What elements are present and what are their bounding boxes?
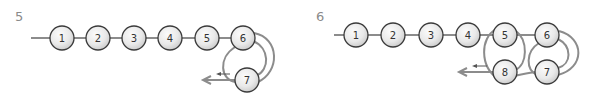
- node-2: 2: [381, 23, 405, 47]
- node-5: 5: [493, 23, 517, 47]
- svg-text:2: 2: [390, 30, 396, 41]
- panel-6: 6 1 2 3 4 5 6 7 8: [316, 9, 578, 84]
- svg-text:5: 5: [502, 30, 508, 41]
- svg-text:6: 6: [240, 33, 246, 44]
- svg-text:7: 7: [244, 75, 250, 86]
- svg-text:4: 4: [167, 33, 173, 44]
- node-6: 6: [535, 23, 559, 47]
- node-3: 3: [122, 26, 146, 50]
- node-2: 2: [86, 26, 110, 50]
- panel-5: 5 1 2 3 4 5 6 7: [15, 9, 274, 92]
- node-7: 7: [535, 60, 559, 84]
- svg-text:8: 8: [502, 67, 508, 78]
- svg-text:1: 1: [353, 30, 359, 41]
- node-5: 5: [195, 26, 219, 50]
- svg-text:6: 6: [544, 30, 550, 41]
- node-4: 4: [158, 26, 182, 50]
- node-4: 4: [456, 23, 480, 47]
- svg-text:1: 1: [59, 33, 65, 44]
- node-1: 1: [344, 23, 368, 47]
- node-6: 6: [231, 26, 255, 50]
- loop-edge-6-7-inner: [558, 39, 569, 68]
- node-1: 1: [50, 26, 74, 50]
- exit-arrow: [203, 72, 236, 84]
- panel-label: 6: [316, 9, 324, 24]
- loop-edge-6-exit: [223, 47, 236, 82]
- svg-text:5: 5: [204, 33, 210, 44]
- node-8: 8: [493, 60, 517, 84]
- svg-text:7: 7: [544, 67, 550, 78]
- panel-label: 5: [15, 9, 23, 24]
- node-3: 3: [419, 23, 443, 47]
- svg-text:4: 4: [465, 30, 471, 41]
- diagram-canvas: 5 1 2 3 4 5 6 7 6: [0, 0, 595, 109]
- svg-text:3: 3: [131, 33, 137, 44]
- svg-text:2: 2: [95, 33, 101, 44]
- svg-text:3: 3: [428, 30, 434, 41]
- node-7: 7: [235, 68, 259, 92]
